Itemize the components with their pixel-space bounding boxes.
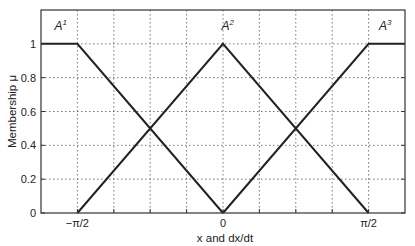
y-tick-label: 1 <box>30 38 36 50</box>
y-tick-label: 0 <box>30 207 36 219</box>
y-tick-label: 0.2 <box>21 173 36 185</box>
y-axis-label: Membership μ <box>6 75 18 148</box>
x-axis-label: x and dx/dt <box>197 232 254 244</box>
x-tick-label: −π/2 <box>66 217 89 229</box>
x-tick-label: 0 <box>220 217 226 229</box>
y-tick-label: 0.4 <box>21 139 36 151</box>
y-tick-label: 0.8 <box>21 72 36 84</box>
series-a1 <box>41 44 223 213</box>
y-tick-label: 0.6 <box>21 106 36 118</box>
series-a3 <box>223 44 405 213</box>
y-axis-ticks: 00.20.40.60.81 <box>21 38 405 219</box>
set-label-a2: A2 <box>220 18 234 33</box>
fuzzy-set-labels: A1A2A3 <box>54 18 392 33</box>
series-a2 <box>77 44 368 213</box>
grid-lines <box>41 10 405 213</box>
x-tick-label: π/2 <box>360 217 377 229</box>
series-lines <box>41 44 405 213</box>
set-label-a3: A3 <box>378 18 392 33</box>
set-label-a1: A1 <box>54 18 67 33</box>
membership-function-chart: 00.20.40.60.81 −π/20π/2 A1A2A3 x and dx/… <box>0 0 415 246</box>
